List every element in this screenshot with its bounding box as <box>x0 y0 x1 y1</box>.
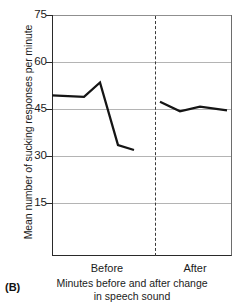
panel-label: (B) <box>5 281 20 293</box>
y-tick-label-15: 15 <box>7 197 47 208</box>
x-axis-title-line2: in speech sound <box>28 290 236 302</box>
y-axis-title: Mean number of sucking responses per min… <box>22 8 34 256</box>
y-tick-label-75: 75 <box>7 9 47 20</box>
figure-panel-b: Mean number of sucking responses per min… <box>0 0 241 302</box>
x-category-label-after: After <box>156 262 234 274</box>
y-tick-label-45: 45 <box>7 103 47 114</box>
gridline-60 <box>53 62 231 63</box>
y-tick-label-30: 30 <box>7 150 47 161</box>
y-tick-label-60: 60 <box>7 56 47 67</box>
gridline-75 <box>53 15 231 16</box>
x-axis-title: Minutes before and after change in speec… <box>28 277 236 302</box>
gridline-15 <box>53 203 231 204</box>
gridline-30 <box>53 156 231 157</box>
phase-divider-dashed-line <box>155 16 156 256</box>
plot-area <box>52 15 232 256</box>
x-axis-title-line1: Minutes before and after change <box>56 277 207 289</box>
x-category-label-before: Before <box>60 262 154 274</box>
gridline-45 <box>53 109 231 110</box>
